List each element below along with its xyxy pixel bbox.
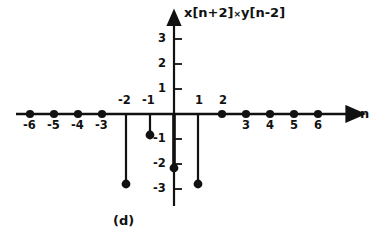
sample-dot-n-plus-6 xyxy=(314,110,322,118)
figure-canvas: x[n+2]×y[n-2] n 3 2 1 -1 -2 -3 -6 -5 -4 … xyxy=(0,0,382,240)
x-tick-label-6: 6 xyxy=(314,120,322,132)
y-tick-label-2: 2 xyxy=(158,58,166,70)
sample-dot-n-plus-5 xyxy=(290,110,298,118)
figure-caption: (d) xyxy=(113,214,134,227)
y-tick-label-minus-1: -1 xyxy=(153,133,166,145)
multiply-icon: × xyxy=(233,9,241,19)
sample-dot-n-plus-1 xyxy=(194,180,203,189)
sample-dot-n-plus-3 xyxy=(242,110,250,118)
plot-title: x[n+2]×y[n-2] xyxy=(184,6,285,19)
y-tick-label-1: 1 xyxy=(158,83,166,95)
x-tick-label-minus-3: -3 xyxy=(95,120,108,132)
x-tick-label-4: 4 xyxy=(266,120,274,132)
x-tick-label-3: 3 xyxy=(242,120,250,132)
x-tick-label-1: 1 xyxy=(195,95,203,107)
y-tick-label-3: 3 xyxy=(158,33,166,45)
x-tick-label-minus-4: -4 xyxy=(71,120,84,132)
x-tick-label-2: 2 xyxy=(219,95,227,107)
sample-dot-n-plus-2 xyxy=(218,110,226,118)
plot-title-left: x[n+2] xyxy=(184,5,233,20)
sample-dot-n-minus-4 xyxy=(74,110,82,118)
x-tick-label-minus-6: -6 xyxy=(23,120,36,132)
x-tick-label-5: 5 xyxy=(290,120,298,132)
x-tick-label-minus-5: -5 xyxy=(47,120,60,132)
x-axis-label: n xyxy=(360,107,369,120)
sample-dot-n-0 xyxy=(170,164,179,173)
y-tick-label-minus-2: -2 xyxy=(153,158,166,170)
stem-lines xyxy=(126,114,198,184)
x-tick-label-minus-2: -2 xyxy=(118,95,131,107)
y-tick-label-minus-3: -3 xyxy=(153,183,166,195)
sample-dot-n-plus-4 xyxy=(266,110,274,118)
sample-dot-n-minus-3 xyxy=(98,110,106,118)
plot-title-right: y[n-2] xyxy=(241,5,285,20)
sample-dot-n-minus-2 xyxy=(122,180,131,189)
sample-dot-n-minus-5 xyxy=(50,110,58,118)
sample-dot-n-minus-6 xyxy=(26,110,34,118)
x-tick-label-minus-1: -1 xyxy=(142,95,155,107)
